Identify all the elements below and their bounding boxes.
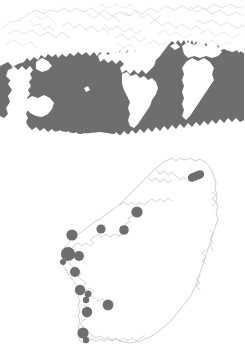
sampling-site-marker <box>103 300 114 311</box>
sampling-site-marker <box>131 206 142 217</box>
sampling-site-marker <box>82 307 92 317</box>
sampling-site-marker <box>66 229 77 240</box>
sampling-site-marker <box>83 337 89 343</box>
world-map-svg <box>0 0 245 150</box>
ireland-map-svg <box>0 150 245 348</box>
sampling-site-marker <box>75 285 85 295</box>
world-faint-coastlines <box>2 4 243 50</box>
sampling-site-marker <box>119 225 129 235</box>
figure-container <box>0 0 245 348</box>
sampling-site-marker <box>85 291 92 298</box>
sampling-site-marker <box>74 251 84 261</box>
world-distribution-map <box>0 0 245 150</box>
sampling-site-marker <box>60 259 66 265</box>
sampling-site-marker <box>70 267 80 277</box>
sampling-site-marker <box>77 327 88 338</box>
sampling-site-marker <box>96 224 105 233</box>
sampling-site-marker <box>83 297 89 303</box>
sampling-site-marker <box>61 247 75 261</box>
ireland-sites-map <box>0 150 245 348</box>
